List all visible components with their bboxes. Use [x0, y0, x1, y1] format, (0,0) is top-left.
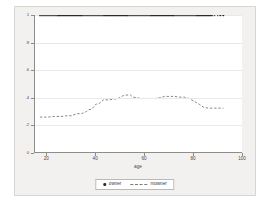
data-point	[217, 15, 219, 16]
y-tick	[31, 98, 34, 99]
owner-marker-icon	[103, 183, 106, 186]
plot-wrapper: 0.2.4.6.81 20406080100 age	[34, 15, 242, 153]
y-tick-label: .6	[26, 68, 30, 72]
y-tick-label: .2	[26, 123, 30, 127]
x-tick-label: 60	[142, 157, 147, 162]
x-tick-label: 20	[44, 157, 49, 162]
y-tick-label: 0	[27, 151, 29, 155]
y-tick	[31, 125, 34, 126]
y-tick-label: .8	[26, 40, 30, 44]
x-tick-label: 40	[93, 157, 98, 162]
mowner-dash-icon	[130, 184, 147, 185]
gridline	[35, 98, 242, 99]
gridline	[35, 125, 242, 126]
y-tick	[31, 15, 34, 16]
x-tick-label: 80	[190, 157, 195, 162]
y-tick-label: .4	[26, 96, 30, 100]
figure-background: 0.2.4.6.81 20406080100 age owner mowner	[14, 6, 256, 196]
y-tick-label: 1	[27, 13, 29, 17]
gridline	[35, 43, 242, 44]
data-point	[214, 15, 216, 16]
legend-item-owner: owner	[103, 182, 121, 187]
y-tick	[31, 43, 34, 44]
y-tick	[31, 70, 34, 71]
legend-item-mowner: mowner	[130, 182, 166, 187]
plot-area	[34, 15, 242, 153]
legend: owner mowner	[95, 179, 174, 190]
legend-label-owner: owner	[109, 182, 122, 187]
data-point	[223, 15, 225, 16]
series-layer	[35, 15, 242, 153]
x-tick-label: 100	[238, 157, 246, 162]
y-tick	[31, 153, 34, 154]
legend-label-mowner: mowner	[150, 182, 166, 187]
data-point	[220, 15, 222, 16]
gridline	[35, 70, 242, 71]
x-axis-title: age	[134, 164, 142, 169]
